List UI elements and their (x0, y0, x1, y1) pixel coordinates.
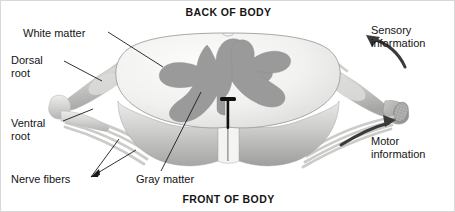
label-motor-line1: Motor (371, 135, 425, 148)
label-gray-matter: Gray matter (136, 173, 194, 186)
ventral-fissure-notch (218, 123, 239, 163)
label-sensory-line2: information (371, 37, 425, 50)
label-dorsal-root-line2: root (11, 67, 43, 80)
label-sensory-information: Sensory information (371, 24, 425, 49)
label-motor-information: Motor information (371, 135, 425, 160)
label-dorsal-root: Dorsal root (11, 54, 43, 79)
leader-dorsal-root (64, 61, 102, 81)
label-ventral-root: Ventral root (11, 117, 45, 142)
spinal-cord-body (116, 33, 340, 166)
spinal-cord-diagram: BACK OF BODY FRONT OF BODY White matter … (0, 0, 455, 212)
label-motor-line2: information (371, 148, 425, 161)
caption-front-of-body: FRONT OF BODY (1, 193, 455, 205)
leader-nerve-fibers-b (91, 139, 119, 177)
label-nerve-fibers: Nerve fibers (11, 173, 70, 186)
label-white-matter: White matter (23, 27, 85, 40)
label-ventral-root-line1: Ventral (11, 117, 45, 130)
label-ventral-root-line2: root (11, 130, 45, 143)
label-sensory-line1: Sensory (371, 24, 425, 37)
label-dorsal-root-line1: Dorsal (11, 54, 43, 67)
caption-back-of-body: BACK OF BODY (1, 6, 455, 18)
